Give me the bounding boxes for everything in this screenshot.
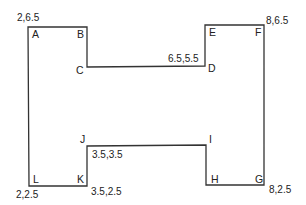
coordinate-label-f: 8,6.5 bbox=[266, 15, 289, 26]
vertex-label-k: K bbox=[77, 173, 84, 185]
h-shape-outline bbox=[28, 25, 264, 186]
vertex-label-b: B bbox=[77, 28, 84, 40]
vertex-label-g: G bbox=[255, 173, 263, 185]
coordinate-label-d: 6.5,5.5 bbox=[168, 53, 199, 64]
coordinate-label-j: 3.5,3.5 bbox=[92, 149, 123, 160]
vertex-labels: ABCDEFGHIJKL bbox=[32, 26, 263, 185]
vertex-label-c: C bbox=[76, 64, 84, 76]
h-shape-diagram: ABCDEFGHIJKL 2,6.56.5,5.58,6.53.5,3.52,2… bbox=[0, 0, 306, 205]
vertex-label-h: H bbox=[211, 173, 219, 185]
coordinate-label-k: 3.5,2.5 bbox=[91, 186, 122, 197]
vertex-label-e: E bbox=[209, 26, 216, 38]
coordinate-label-g: 8,2.5 bbox=[269, 184, 292, 195]
vertex-label-i: I bbox=[209, 133, 212, 145]
coordinate-label-l: 2,2.5 bbox=[16, 189, 39, 200]
vertex-label-j: J bbox=[80, 133, 85, 145]
vertex-label-l: L bbox=[33, 173, 39, 185]
coordinate-label-a: 2,6.5 bbox=[17, 12, 40, 23]
coordinate-labels: 2,6.56.5,5.58,6.53.5,3.52,2.53.5,2.58,2.… bbox=[16, 12, 292, 200]
vertex-label-a: A bbox=[32, 28, 39, 40]
vertex-label-d: D bbox=[208, 62, 216, 74]
vertex-label-f: F bbox=[255, 26, 261, 38]
